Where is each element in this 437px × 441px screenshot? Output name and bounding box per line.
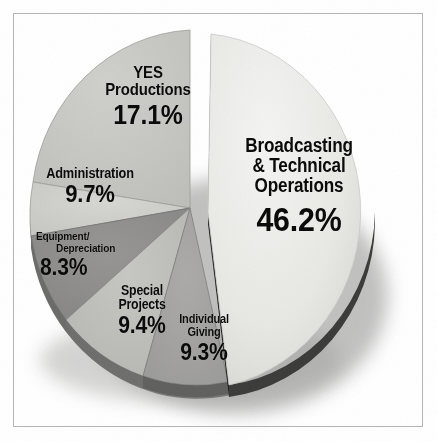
slice-name-line: Administration (28, 166, 151, 181)
slice-label-broadcasting-technical-operations: Broadcasting & Technical Operations 46.2… (223, 136, 375, 236)
slice-name-line: YES (92, 64, 205, 81)
slice-percent: 46.2% (229, 203, 369, 237)
slice-percent: 8.3% (40, 256, 139, 279)
slice-percent: 17.1% (89, 102, 207, 130)
slice-label-administration: Administration 9.7% (20, 166, 160, 206)
slice-name-line: Productions (92, 81, 205, 98)
slice-name-line: Projects (98, 297, 186, 311)
slice-name-line: Depreciation (56, 243, 137, 255)
slice-percent: 9.3% (161, 341, 247, 364)
slice-label-yes-productions: YES Productions 17.1% (84, 64, 212, 129)
slice-label-individual-giving: Individual Giving 9.3% (157, 313, 251, 364)
slice-name-line: Special (98, 283, 186, 297)
pie-chart: Broadcasting & Technical Operations 46.2… (0, 0, 437, 441)
slice-name-line: Operations (232, 176, 366, 196)
pie-chart-page: Broadcasting & Technical Operations 46.2… (0, 0, 437, 441)
slice-percent: 9.7% (26, 182, 155, 206)
slice-label-equipment-depreciation: Equipment/ Depreciation 8.3% (36, 231, 148, 280)
slice-name-line: Giving (163, 326, 246, 339)
